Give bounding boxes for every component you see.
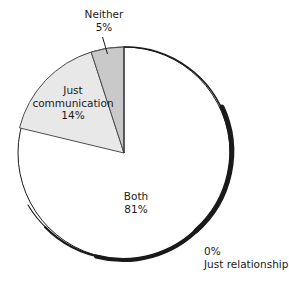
slice-label-both-percent: 81% xyxy=(108,203,164,216)
slice-label-just-communication-name-line1: Just xyxy=(26,84,120,97)
slice-label-just-relationship-name: Just relationship xyxy=(204,258,288,271)
slice-label-just-relationship: 0% Just relationship xyxy=(204,245,288,270)
pie-chart-figure: Neither 5% Just communication 14% Both 8… xyxy=(0,0,289,284)
pie-chart-graphic xyxy=(0,0,289,284)
slice-label-just-communication-name-line2: communication xyxy=(26,97,120,110)
slice-label-both: Both 81% xyxy=(108,190,164,215)
slice-label-just-relationship-percent: 0% xyxy=(204,245,288,258)
slice-label-both-name: Both xyxy=(108,190,164,203)
slice-label-neither: Neither 5% xyxy=(68,8,140,33)
slice-label-neither-name: Neither xyxy=(68,8,140,21)
slice-label-just-communication: Just communication 14% xyxy=(26,84,120,122)
slice-label-neither-percent: 5% xyxy=(68,21,140,34)
slice-label-just-communication-percent: 14% xyxy=(26,109,120,122)
